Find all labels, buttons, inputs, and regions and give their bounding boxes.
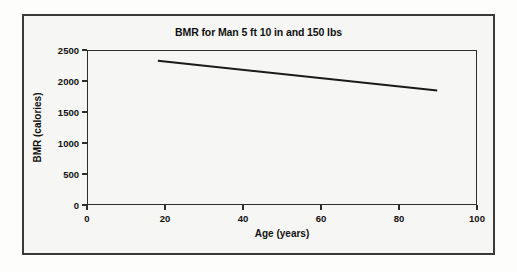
x-tick-label: 100 [469, 213, 485, 224]
y-tick-mark [82, 173, 87, 174]
chart-title: BMR for Man 5 ft 10 in and 150 lbs [24, 26, 493, 38]
x-tick-mark [86, 205, 87, 210]
y-tick-mark [82, 111, 87, 112]
y-tick-mark [82, 80, 87, 81]
y-tick-label: 500 [43, 169, 79, 180]
y-axis-title-text: BMR (calories) [32, 92, 43, 162]
x-tick-label: 40 [238, 213, 249, 224]
y-axis-title: BMR (calories) [30, 50, 44, 205]
y-tick-label: 1500 [43, 107, 79, 118]
x-tick-mark [398, 205, 399, 210]
x-tick-label: 80 [394, 213, 405, 224]
x-axis-title: Age (years) [87, 228, 477, 239]
y-tick-label: 1000 [43, 138, 79, 149]
chart-screenshot: BMR for Man 5 ft 10 in and 150 lbs BMR (… [0, 0, 517, 272]
plot-area [87, 50, 477, 205]
x-tick-mark [476, 205, 477, 210]
x-tick-mark [164, 205, 165, 210]
x-tick-label: 60 [316, 213, 327, 224]
y-tick-label: 2000 [43, 76, 79, 87]
y-tick-label: 0 [43, 200, 79, 211]
bmr-line-series [158, 61, 437, 91]
x-tick-mark [242, 205, 243, 210]
x-tick-label: 20 [160, 213, 171, 224]
plot-series-svg [88, 51, 476, 204]
x-tick-mark [320, 205, 321, 210]
x-tick-label: 0 [84, 213, 89, 224]
y-tick-mark [82, 142, 87, 143]
y-tick-label: 2500 [43, 45, 79, 56]
y-tick-mark [82, 49, 87, 50]
figure-frame: BMR for Man 5 ft 10 in and 150 lbs BMR (… [22, 14, 495, 255]
